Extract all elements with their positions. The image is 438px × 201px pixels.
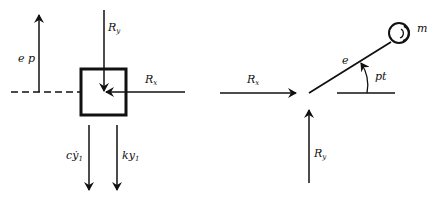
rx-label: Rx	[144, 73, 157, 87]
m-label: m	[417, 22, 427, 35]
right-rotor-diagram: Rx Ry e pt m	[220, 22, 427, 183]
rx-label-right: Rx	[246, 73, 259, 87]
ry-label-right: Ry	[313, 147, 327, 161]
ry-label: Ry	[107, 21, 121, 35]
mass-ball-icon	[389, 23, 409, 43]
e-label: e	[342, 54, 349, 67]
pt-label: pt	[375, 70, 387, 83]
diagram-canvas: e p Ry Rx cẏ1 ky1 Rx Ry e pt	[0, 0, 438, 201]
angle-arc	[361, 63, 368, 93]
left-free-body-diagram: e p Ry Rx cẏ1 ky1	[11, 10, 185, 190]
damping-label: cẏ1	[66, 149, 83, 163]
ep-label: e p	[18, 52, 35, 65]
spring-label: ky1	[122, 149, 139, 163]
eccentric-arm	[309, 42, 391, 93]
